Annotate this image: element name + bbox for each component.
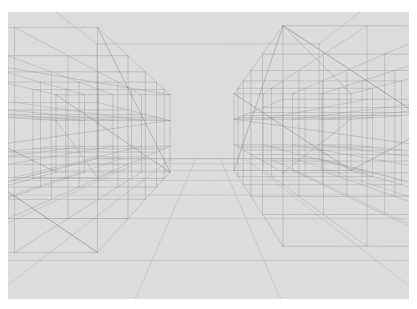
drawing-stage — [0, 0, 417, 309]
wireframe-svg — [8, 12, 409, 299]
drawing-plate — [8, 12, 409, 299]
